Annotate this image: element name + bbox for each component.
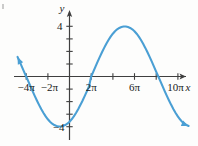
x-tick-label-neg2pi: −2π <box>41 81 59 93</box>
x-tick-label-10pi: 10π <box>167 81 184 93</box>
axes-group <box>14 10 186 140</box>
y-tick-label-neg4: −4 <box>53 121 65 133</box>
graph-figure: −4π −2π 2π 6π 10π 4 −4 x y <box>0 0 198 146</box>
x-tick-label-2pi: 2π <box>86 81 98 93</box>
x-tick-label-neg4pi: −4π <box>18 81 36 93</box>
x-tick-label-6pi: 6π <box>129 81 141 93</box>
x-axis-label: x <box>185 81 191 93</box>
y-tick-label-4: 4 <box>57 20 63 32</box>
sine-graph-plot: −4π −2π 2π 6π 10π 4 −4 x y <box>0 0 198 146</box>
curve-left-arrowhead <box>18 57 24 65</box>
y-axis-label: y <box>59 2 65 14</box>
